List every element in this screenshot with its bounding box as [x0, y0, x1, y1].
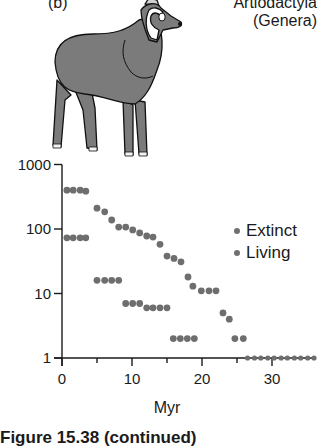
- data-point-living: [70, 234, 77, 241]
- tick-labels: 11010010000102030: [18, 156, 281, 388]
- data-point-extinct: [305, 355, 310, 360]
- data-point-extinct: [245, 355, 250, 360]
- data-point-extinct: [185, 274, 192, 281]
- data-points: [64, 187, 317, 361]
- data-point-living: [136, 300, 143, 307]
- data-point-living: [177, 335, 184, 342]
- data-point-extinct: [279, 355, 284, 360]
- data-point-extinct: [206, 287, 213, 294]
- data-point-living: [191, 335, 198, 342]
- legend-item-extinct: Extinct: [234, 220, 297, 242]
- data-point-extinct: [272, 355, 277, 360]
- data-point-living: [82, 234, 89, 241]
- y-tick-label: 100: [26, 220, 51, 237]
- data-point-extinct: [292, 355, 297, 360]
- data-point-extinct: [82, 188, 89, 195]
- legend-label: Living: [246, 242, 290, 264]
- data-point-extinct: [285, 355, 290, 360]
- data-point-living: [129, 300, 136, 307]
- data-point-extinct: [136, 230, 143, 237]
- data-point-extinct: [213, 287, 220, 294]
- data-point-living: [170, 335, 177, 342]
- legend-dot-icon: [234, 228, 240, 234]
- data-point-extinct: [258, 355, 263, 360]
- data-point-extinct: [94, 205, 101, 212]
- data-point-extinct: [190, 283, 197, 290]
- data-point-living: [94, 277, 101, 284]
- data-point-living: [108, 277, 115, 284]
- x-tick-label: 0: [58, 370, 66, 387]
- data-point-living: [122, 300, 129, 307]
- x-tick-label: 10: [124, 370, 141, 387]
- data-point-living: [115, 277, 122, 284]
- x-axis-title: Myr: [154, 399, 181, 416]
- data-point-living: [157, 304, 164, 311]
- data-point-living: [143, 304, 150, 311]
- data-point-extinct: [64, 187, 71, 194]
- data-point-extinct: [298, 355, 303, 360]
- y-tick-label: 1000: [18, 156, 51, 173]
- data-point-living: [150, 304, 157, 311]
- data-point-extinct: [265, 355, 270, 360]
- data-point-extinct: [70, 187, 77, 194]
- legend-item-living: Living: [234, 242, 297, 264]
- x-tick-label: 20: [194, 370, 211, 387]
- figure-caption: Figure 15.38 (continued): [0, 428, 196, 448]
- data-point-extinct: [311, 355, 316, 360]
- data-point-extinct: [164, 253, 171, 260]
- data-point-extinct: [122, 224, 129, 231]
- data-point-living: [184, 335, 191, 342]
- data-point-extinct: [220, 310, 227, 317]
- data-point-extinct: [226, 316, 233, 323]
- data-point-living: [101, 277, 108, 284]
- x-tick-label: 30: [264, 370, 281, 387]
- data-point-extinct: [101, 208, 108, 215]
- data-point-extinct: [129, 227, 136, 234]
- data-point-extinct: [252, 355, 257, 360]
- data-point-living: [64, 234, 71, 241]
- data-point-living: [164, 304, 171, 311]
- data-point-extinct: [108, 217, 115, 224]
- y-tick-label: 1: [43, 349, 51, 366]
- y-tick-label: 10: [34, 285, 51, 302]
- data-point-extinct: [198, 287, 205, 294]
- chart-axes: [54, 165, 316, 367]
- legend-label: Extinct: [246, 220, 297, 242]
- data-point-extinct: [232, 335, 239, 342]
- data-point-extinct: [115, 224, 122, 231]
- data-point-extinct: [240, 335, 247, 342]
- data-point-extinct: [178, 258, 185, 265]
- data-point-extinct: [143, 233, 150, 240]
- data-point-extinct: [157, 241, 164, 248]
- legend-dot-icon: [234, 250, 240, 256]
- data-point-extinct: [150, 234, 157, 241]
- chart-legend: Extinct Living: [234, 220, 297, 264]
- data-point-extinct: [171, 255, 178, 262]
